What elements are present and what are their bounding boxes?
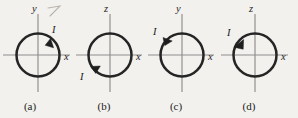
panel-c-vertical-axis-label: y xyxy=(175,3,181,14)
panel-d: z x I (d) xyxy=(221,3,288,113)
panel-c-current-label: I xyxy=(152,26,157,37)
panel-d-caption: (d) xyxy=(243,100,256,113)
panel-a-horizontal-axis-label: x xyxy=(63,51,69,62)
panel-a-caption: (a) xyxy=(24,100,37,113)
panel-c: y x I (c) xyxy=(148,3,214,113)
figure-canvas: y x I (a) z x I (b) y x I (c) xyxy=(0,0,298,118)
current-loop-figure: y x I (a) z x I (b) y x I (c) xyxy=(0,0,298,118)
panel-a: y x I (a) xyxy=(3,3,70,113)
panel-c-horizontal-axis-label: x xyxy=(207,51,213,62)
panel-d-current-label: I xyxy=(226,27,231,38)
panel-d-horizontal-axis-label: x xyxy=(280,51,286,62)
panel-b: z x I (b) xyxy=(76,3,142,113)
stray-pencil-mark xyxy=(48,6,60,16)
panel-b-current-label: I xyxy=(79,71,84,82)
panel-c-caption: (c) xyxy=(170,100,183,113)
panel-a-vertical-axis-label: y xyxy=(31,3,37,14)
panel-b-vertical-axis-label: z xyxy=(103,3,108,14)
panel-b-caption: (b) xyxy=(98,100,111,113)
panel-b-horizontal-axis-label: x xyxy=(135,51,141,62)
panel-d-vertical-axis-label: z xyxy=(248,3,253,14)
panel-a-current-label: I xyxy=(51,24,56,35)
